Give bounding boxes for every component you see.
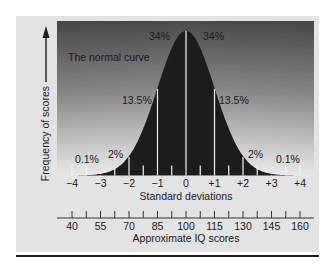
iq-tick-label: 130: [234, 220, 252, 232]
sd-tick-label: −4: [66, 177, 78, 189]
iq-tick-label: 160: [291, 220, 309, 232]
iq-tick-label: 40: [66, 220, 78, 232]
pct-13-left: 13.5%: [122, 94, 152, 106]
sd-tick-label: −2: [123, 177, 135, 189]
y-axis-label: Frequency of scores: [39, 86, 51, 181]
normal-curve-chart: Frequency of scores The normal curve 34%…: [0, 0, 333, 269]
iq-tick-label: 145: [263, 220, 281, 232]
pct-34-left: 34%: [149, 30, 170, 42]
pct-13-right: 13.5%: [219, 94, 249, 106]
iq-tick-label: 100: [177, 220, 195, 232]
sd-tick-label: −1: [152, 177, 164, 189]
sd-tick-labels: −4−3−2−10+1+2+3+4: [66, 177, 306, 189]
pct-2-right: 2%: [248, 148, 263, 160]
iq-tick-label: 70: [123, 220, 135, 232]
pct-01-right: 0.1%: [276, 153, 300, 165]
sd-tick-label: 0: [183, 177, 189, 189]
iq-tick-label: 85: [152, 220, 164, 232]
sd-tick-label: +4: [294, 177, 306, 189]
y-axis-arrow-icon: [43, 26, 50, 82]
iq-tick-label: 55: [95, 220, 107, 232]
iq-tick-label: 115: [206, 220, 223, 232]
iq-ticks: [72, 211, 300, 218]
curve-title: The normal curve: [68, 51, 150, 63]
pct-2-left: 2%: [108, 148, 123, 160]
sd-tick-label: +3: [266, 177, 278, 189]
sd-tick-label: +1: [209, 177, 221, 189]
pct-01-left: 0.1%: [75, 153, 99, 165]
sd-axis-label: Standard deviations: [140, 190, 233, 202]
sd-tick-label: −3: [95, 177, 107, 189]
sd-tick-label: +2: [237, 177, 249, 189]
pct-34-right: 34%: [203, 30, 224, 42]
iq-axis-label: Approximate IQ scores: [133, 232, 240, 244]
iq-tick-labels: 40557085100115130145160: [66, 220, 309, 232]
